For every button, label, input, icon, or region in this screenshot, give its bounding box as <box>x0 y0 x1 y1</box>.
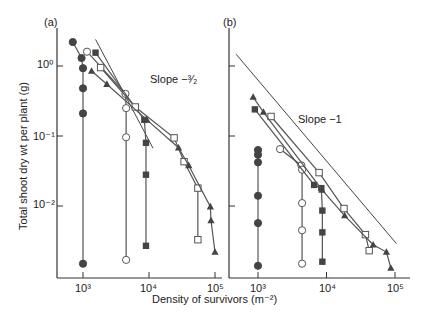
filled-circle-marker <box>79 65 86 72</box>
filled-circle-marker <box>254 192 261 199</box>
open-square-marker <box>366 247 372 253</box>
open-circle-marker <box>276 145 283 152</box>
panel-a-label: (a) <box>44 16 57 28</box>
filled-triangle-marker <box>88 67 95 74</box>
open-circle-marker <box>123 105 130 112</box>
filled-square-marker <box>143 140 149 146</box>
filled-square-marker <box>319 259 325 265</box>
filled-triangle-marker <box>383 248 390 255</box>
filled-square-marker <box>143 171 149 177</box>
slope-annotation-a: Slope −³⁄₂ <box>150 73 197 85</box>
filled-triangle-marker <box>207 203 214 210</box>
filled-triangle-marker <box>207 217 214 224</box>
filled-square-marker <box>252 106 258 112</box>
slope-annotation-b: Slope −1 <box>298 113 342 125</box>
x-tick-label-a-1e3: 10³ <box>75 282 91 294</box>
filled-triangle-marker <box>250 93 257 100</box>
y-tick-label-1e-2: 10⁻² <box>33 198 55 211</box>
filled-square-marker <box>143 243 149 249</box>
open-square-marker <box>195 237 201 243</box>
open-square-marker <box>171 135 177 141</box>
filled-square-marker <box>319 207 325 213</box>
x-axis-label: Density of survivors (m⁻²) <box>152 293 277 306</box>
series-line <box>92 71 215 252</box>
filled-circle-marker <box>69 38 76 45</box>
y-tick-label-1e0: 10⁰ <box>37 58 53 71</box>
open-square-marker <box>316 169 322 175</box>
open-circle-marker <box>298 227 305 234</box>
open-circle-marker <box>83 48 90 55</box>
filled-square-marker <box>319 229 325 235</box>
filled-square-marker <box>92 49 98 55</box>
filled-triangle-marker <box>211 248 218 255</box>
filled-circle-marker <box>79 110 86 117</box>
series-line <box>101 68 198 240</box>
chart-canvas <box>0 0 423 322</box>
filled-circle-marker <box>79 260 86 267</box>
filled-circle-marker <box>254 262 261 269</box>
filled-triangle-marker <box>387 264 394 271</box>
filled-circle-marker <box>78 54 85 61</box>
filled-circle-marker <box>254 151 261 158</box>
filled-circle-marker <box>254 159 261 166</box>
y-tick-label-1e-1: 10⁻¹ <box>33 130 55 143</box>
open-circle-marker <box>123 256 130 263</box>
open-circle-marker <box>298 200 305 207</box>
open-square-marker <box>97 64 103 70</box>
filled-circle-marker <box>254 219 261 226</box>
open-circle-marker <box>298 260 305 267</box>
x-tick-label-b-1e4: 10⁴ <box>319 282 336 294</box>
panel-b-label: (b) <box>223 16 236 28</box>
filled-circle-marker <box>79 85 86 92</box>
open-square-marker <box>341 205 347 211</box>
x-tick-label-b-1e5: 10⁵ <box>387 282 404 294</box>
y-axis-label: Total shoot dry wt per plant (g) <box>17 71 29 241</box>
open-circle-marker <box>123 134 130 141</box>
series-line <box>73 42 83 264</box>
